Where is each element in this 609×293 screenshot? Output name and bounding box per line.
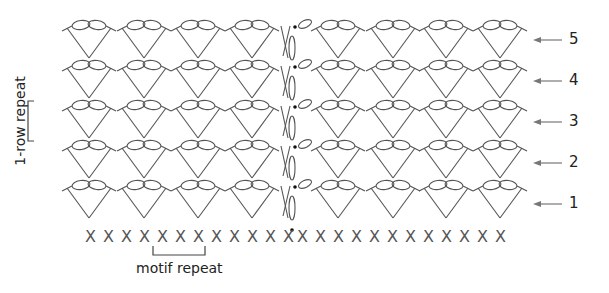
fan-stitch (117, 59, 171, 98)
fan-stitch (225, 99, 279, 138)
fan-stitch (311, 139, 365, 178)
motif-repeat-bracket (153, 246, 205, 255)
row-5-arrow-icon (533, 37, 562, 43)
single-crochet-symbol: X (369, 229, 380, 245)
fan-stitch (62, 179, 116, 218)
single-crochet-symbol: X (247, 229, 258, 245)
single-crochet-symbol: X (229, 229, 240, 245)
fan-stitch (419, 99, 473, 138)
row-number-5: 5 (569, 30, 579, 48)
motif-repeat-label: motif repeat (136, 260, 223, 276)
fan-stitch (366, 139, 420, 178)
single-crochet-symbol: X (103, 229, 114, 245)
row-repeat-bracket (28, 101, 34, 141)
single-crochet-symbol: X (459, 229, 470, 245)
fan-stitch (117, 19, 171, 58)
single-crochet-symbol: X (495, 229, 506, 245)
fan-stitch (311, 59, 365, 98)
single-crochet-symbol: X (175, 229, 186, 245)
fan-stitch (225, 59, 279, 98)
single-crochet-symbol: X (139, 229, 150, 245)
fan-stitch (419, 59, 473, 98)
turning-chain (281, 178, 313, 220)
fan-stitch (419, 19, 473, 58)
single-crochet-symbol: X (193, 229, 204, 245)
single-crochet-symbol: X (157, 229, 168, 245)
single-crochet-symbol: X (297, 229, 308, 245)
row-3-arrow-icon (533, 119, 562, 125)
fan-stitch (62, 139, 116, 178)
fan-stitch (311, 19, 365, 58)
turning-chains (281, 18, 313, 232)
fan-stitch (473, 139, 527, 178)
fan-stitch (311, 179, 365, 218)
turning-chain (281, 58, 313, 100)
row-number-3: 3 (569, 112, 579, 130)
single-crochet-symbol: X (211, 229, 222, 245)
fan-stitch (171, 19, 225, 58)
row-number-2: 2 (569, 153, 579, 171)
row-number-1: 1 (569, 194, 579, 212)
fan-stitch (117, 139, 171, 178)
turning-chain (281, 18, 313, 60)
fan-stitch (62, 59, 116, 98)
crochet-chart (0, 0, 609, 293)
fan-stitch (225, 139, 279, 178)
fan-stitch (171, 139, 225, 178)
single-crochet-symbol: X (405, 229, 416, 245)
fan-stitch (62, 99, 116, 138)
single-crochet-symbol: X (477, 229, 488, 245)
fan-stitch (473, 19, 527, 58)
fan-stitch (366, 19, 420, 58)
fan-stitch (117, 179, 171, 218)
fan-stitch (62, 19, 116, 58)
row-4-arrow-icon (533, 78, 562, 84)
row-repeat-label: 1-row repeat (12, 66, 28, 176)
single-crochet-symbol: X (121, 229, 132, 245)
single-crochet-symbol: X (423, 229, 434, 245)
row-arrows (533, 37, 562, 207)
fan-stitch (225, 19, 279, 58)
single-crochet-symbol: X (265, 229, 276, 245)
turning-chain (281, 98, 313, 140)
fan-stitch (419, 139, 473, 178)
fan-stitch (473, 59, 527, 98)
fan-stitch (473, 179, 527, 218)
single-crochet-symbol: X (333, 229, 344, 245)
fan-stitch (366, 179, 420, 218)
single-crochet-symbol: X (85, 229, 96, 245)
fan-stitch (419, 179, 473, 218)
fan-stitch (311, 99, 365, 138)
single-crochet-symbol: X (283, 229, 294, 245)
row-1-arrow-icon (533, 201, 562, 207)
fan-stitch (473, 99, 527, 138)
single-crochet-symbol: X (315, 229, 326, 245)
single-crochet-symbol: X (441, 229, 452, 245)
fan-stitch (366, 99, 420, 138)
fan-stitch (225, 179, 279, 218)
single-crochet-symbol: X (387, 229, 398, 245)
fan-stitch (366, 59, 420, 98)
single-crochet-symbol: X (351, 229, 362, 245)
fan-stitch (171, 179, 225, 218)
fan-stitch (171, 59, 225, 98)
turning-chain (281, 138, 313, 180)
row-2-arrow-icon (533, 160, 562, 166)
row-number-4: 4 (569, 71, 579, 89)
fan-stitch (117, 99, 171, 138)
fan-stitch (171, 99, 225, 138)
